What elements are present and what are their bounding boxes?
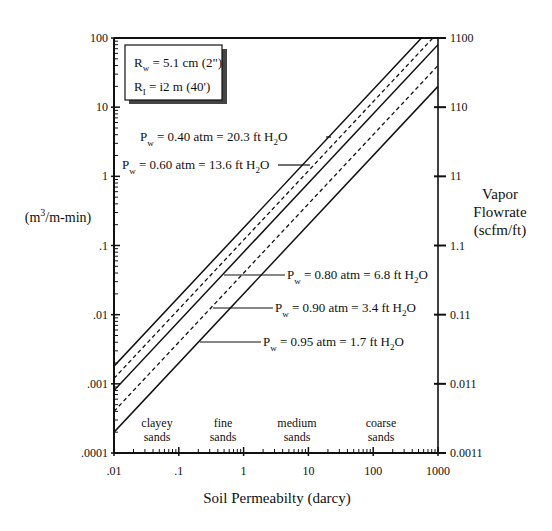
series-label-0.60: Pw = 0.60 atm = 13.6 ft H2O [122, 157, 310, 176]
series-label-0.90: Pw = 0.90 atm = 3.4 ft H2O [213, 300, 416, 319]
y-tick-right-label: 1100 [450, 31, 474, 45]
y-axis-left-title: (m3/m-min) [25, 207, 92, 226]
svg-text:Pw = 0.80 atm = 6.8 ft H2O: Pw = 0.80 atm = 6.8 ft H2O [287, 267, 428, 286]
y-tick-right-label: 11 [450, 169, 462, 183]
y-axis-right-title-2: Flowrate [473, 204, 527, 220]
x-tick-label: .1 [174, 464, 183, 478]
y-tick-left-label: .01 [93, 308, 108, 322]
y-tick-right-label: 1.1 [450, 239, 465, 253]
x-tick-label: 10 [302, 464, 314, 478]
x-tick-label: .01 [107, 464, 122, 478]
y-tick-left-label: 1 [102, 169, 108, 183]
y-tick-right-label: 0.0011 [450, 446, 483, 460]
y-tick-left-label: 100 [90, 31, 108, 45]
y-tick-left-label: .0001 [81, 446, 108, 460]
svg-text:Pw = 0.95 atm = 1.7 ft H2O: Pw = 0.95 atm = 1.7 ft H2O [263, 334, 404, 353]
y-axis-right-title-3: (scfm/ft) [474, 222, 526, 239]
svg-text:sands: sands [210, 430, 237, 444]
chart: Rw = 5.1 cm (2") RI = i2 m (40') Pw = 0.… [0, 0, 552, 531]
y-tick-right-label: 0.11 [450, 308, 471, 322]
x-axis-title: Soil Permeabilty (darcy) [203, 490, 350, 507]
series-label-0.95: Pw = 0.95 atm = 1.7 ft H2O [200, 334, 404, 353]
x-tick-label: 1000 [426, 464, 450, 478]
x-tick-label: 100 [364, 464, 382, 478]
series-label-0.40: Pw = 0.40 atm = 20.3 ft H2O [140, 129, 331, 148]
y-tick-right-label: 110 [450, 100, 468, 114]
y-tick-right-label: 0.011 [450, 377, 477, 391]
series-line-3 [114, 66, 438, 412]
soil-region-labels: clayey sands fine sands medium sands coa… [141, 416, 396, 444]
y-tick-left-label: .1 [99, 239, 108, 253]
svg-text:sands: sands [368, 430, 395, 444]
y-tick-left-label: 10 [96, 100, 108, 114]
svg-text:Pw = 0.60 atm = 13.6 ft H2O: Pw = 0.60 atm = 13.6 ft H2O [122, 157, 269, 176]
region-medium: medium [277, 416, 317, 430]
legend-box: Rw = 5.1 cm (2") RI = i2 m (40') [125, 45, 227, 104]
svg-text:sands: sands [284, 430, 311, 444]
svg-text:Pw = 0.90 atm = 3.4 ft H2O: Pw = 0.90 atm = 3.4 ft H2O [275, 300, 416, 319]
y-tick-left-label: .001 [87, 377, 108, 391]
y-axis-right-title-1: Vapor [482, 186, 518, 202]
x-tick-label: 1 [241, 464, 247, 478]
region-fine: fine [214, 416, 233, 430]
svg-text:Pw = 0.40 atm = 20.3 ft H2O: Pw = 0.40 atm = 20.3 ft H2O [140, 129, 287, 148]
region-clayey: clayey [141, 416, 172, 430]
region-coarse: coarse [366, 416, 397, 430]
svg-text:sands: sands [144, 430, 171, 444]
